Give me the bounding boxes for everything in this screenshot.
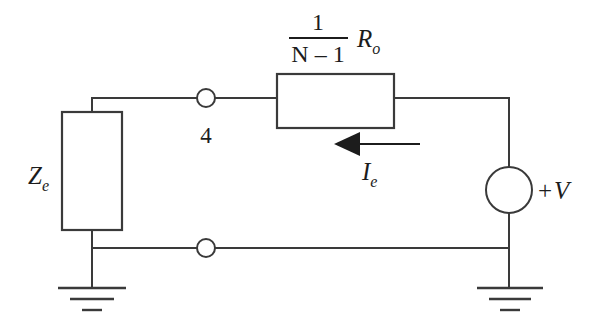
circuit-diagram: 1 N – 1 Ro Ze Ie +V 4 — [0, 0, 594, 334]
node-terminal-top-icon — [197, 89, 215, 107]
current-subscript: e — [370, 173, 377, 190]
resistor-block — [277, 74, 394, 128]
resistor-symbol: R — [356, 25, 372, 52]
resistor-fraction-numerator: 1 — [312, 9, 324, 35]
impedance-block — [62, 112, 122, 230]
ground-right-icon — [477, 288, 543, 310]
source-label: +V — [538, 177, 572, 204]
node-terminal-bottom-icon — [197, 239, 215, 257]
voltage-source-icon — [486, 167, 532, 213]
current-label: Ie — [361, 158, 377, 190]
source-symbol: V — [554, 177, 572, 204]
current-arrow-icon — [334, 132, 420, 156]
impedance-symbol: Z — [28, 162, 43, 189]
ground-left-icon — [58, 288, 126, 310]
source-polarity: + — [538, 177, 552, 204]
node-number-label: 4 — [200, 123, 212, 148]
resistor-fraction-denominator: N – 1 — [291, 41, 344, 67]
impedance-subscript: e — [42, 177, 49, 194]
schematic-canvas: 1 N – 1 Ro Ze Ie +V 4 — [0, 0, 594, 334]
impedance-label: Ze — [28, 162, 49, 194]
resistor-symbol-label: Ro — [356, 25, 380, 57]
resistor-subscript: o — [372, 40, 380, 57]
